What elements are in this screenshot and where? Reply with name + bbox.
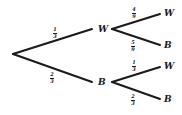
branch-B-to-W [112, 67, 160, 82]
numerator: 4 [132, 7, 135, 12]
prob-B-B: 23 [131, 94, 135, 106]
denominator: 3 [53, 34, 56, 39]
numerator: 1 [132, 60, 135, 65]
tree-branches [0, 0, 182, 115]
node-W-W: W [164, 9, 174, 18]
node-W-B: B [164, 41, 172, 50]
prob-W-B: 59 [131, 40, 135, 52]
branch-W-to-B [112, 29, 160, 45]
numerator: 1 [53, 27, 56, 32]
denominator: 3 [132, 67, 135, 72]
node-B: B [98, 78, 106, 87]
node-B-W: W [164, 62, 174, 71]
branch-W-to-W [112, 14, 160, 29]
denominator: 9 [132, 14, 135, 19]
denominator: 3 [131, 101, 134, 106]
denominator: 3 [50, 79, 53, 84]
numerator: 2 [50, 72, 53, 77]
branch-B-to-B [112, 82, 160, 99]
node-B-B: B [164, 95, 172, 104]
prob-root-B: 23 [50, 72, 54, 84]
numerator: 2 [131, 94, 134, 99]
denominator: 9 [131, 47, 134, 52]
node-W: W [98, 25, 108, 34]
prob-W-W: 49 [132, 7, 136, 19]
numerator: 5 [131, 40, 134, 45]
prob-B-W: 13 [132, 60, 136, 72]
prob-root-W: 13 [53, 27, 57, 39]
